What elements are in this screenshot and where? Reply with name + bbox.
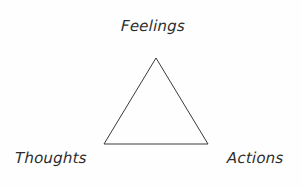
label-actions: Actions: [227, 151, 284, 166]
label-feelings: Feelings: [121, 19, 185, 34]
cognitive-triangle-diagram: Feelings Thoughts Actions: [0, 0, 302, 187]
triangle-shape: [104, 58, 208, 144]
label-thoughts: Thoughts: [15, 151, 87, 166]
